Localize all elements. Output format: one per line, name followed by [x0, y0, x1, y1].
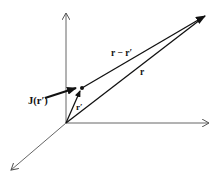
- source-point: [80, 86, 84, 90]
- field-vector-r: [66, 16, 205, 123]
- label-field-vector: r: [140, 67, 145, 77]
- label-current-density: J(r′): [28, 95, 48, 107]
- x-axis: [11, 123, 66, 170]
- label-separation-vector: r − r′: [111, 48, 132, 58]
- current-density-arrow: [45, 88, 76, 98]
- separation-vector: [82, 16, 205, 88]
- label-source-vector: r′: [76, 102, 83, 112]
- vector-diagram: J(r′) r′ r r − r′: [0, 0, 220, 178]
- vectors: [45, 16, 205, 123]
